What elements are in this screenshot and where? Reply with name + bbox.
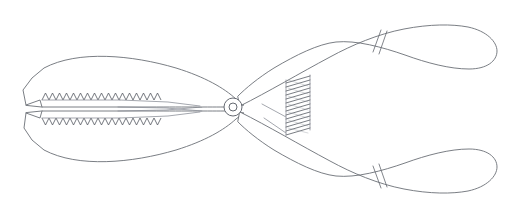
- pliers-line-drawing: [0, 0, 525, 218]
- pivot-rivet: [224, 98, 242, 116]
- lower-jaw: [24, 111, 244, 162]
- coil-spring: [286, 75, 310, 135]
- upper-arm-group: [23, 25, 497, 111]
- illustration-canvas: Pliers technical line drawing: [0, 0, 525, 218]
- upper-handle: [238, 25, 497, 106]
- lower-arm-group: [24, 107, 497, 193]
- lower-handle: [238, 112, 497, 193]
